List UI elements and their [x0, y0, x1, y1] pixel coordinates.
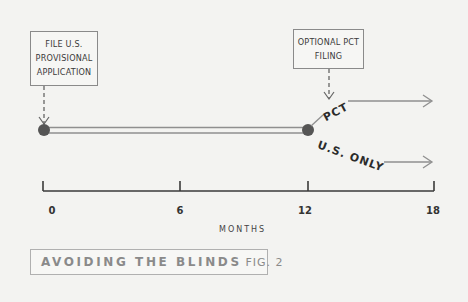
tick-label-18: 18 — [426, 205, 440, 216]
caption-fig-number: FIG. 2 — [245, 256, 283, 269]
provisional-application-box: FILE U.S. PROVISIONAL APPLICATION — [30, 31, 98, 86]
start-dot — [38, 124, 50, 136]
figure-caption: AVOIDING THE BLINDS FIG. 2 — [30, 249, 268, 275]
caption-title: AVOIDING THE BLINDS — [41, 255, 242, 269]
tick-label-0: 0 — [49, 205, 56, 216]
pct-branch-diagonal — [311, 115, 323, 126]
axis-title-months: MONTHS — [219, 225, 266, 234]
optional-pct-filing-box: OPTIONAL PCT FILING — [293, 29, 364, 69]
box-line: FILE U.S. — [31, 37, 97, 51]
tick-label-12: 12 — [298, 205, 312, 216]
box-line: PROVISIONAL — [31, 51, 97, 65]
box-line: FILING — [294, 49, 363, 63]
box-line: OPTIONAL PCT — [294, 35, 363, 49]
branch-dot — [302, 124, 314, 136]
tick-label-6: 6 — [177, 205, 184, 216]
box-line: APPLICATION — [31, 65, 97, 79]
